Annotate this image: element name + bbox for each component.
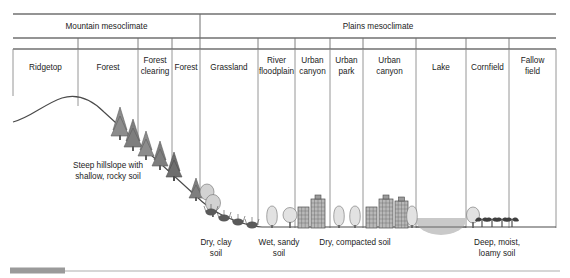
zone-label-urban-canyon-2-line1: Urban xyxy=(378,56,401,65)
building xyxy=(366,207,377,228)
zone-divider-ticks xyxy=(78,38,509,49)
conifer-tree xyxy=(166,152,182,181)
zone-label-grassland: Grassland xyxy=(210,63,248,72)
poplar-tree xyxy=(267,206,278,228)
soil-label-dry-clay-line2: soil xyxy=(210,249,222,258)
soil-label-dry-compacted: Dry, compacted soil xyxy=(319,238,390,247)
zone-label-urban-park-line1: Urban xyxy=(335,56,358,65)
mesoclimate-label-mountain: Mountain mesoclimate xyxy=(66,22,148,31)
shrub xyxy=(217,210,231,221)
mesoclimate-transect-figure: Mountain mesoclimate Plains mesoclimate xyxy=(0,0,570,278)
zone-label-urban-canyon-2-line2: canyon xyxy=(376,67,403,76)
poplar-tree xyxy=(334,206,345,228)
zone-label-cornfield: Cornfield xyxy=(471,63,504,72)
soil-label-deep-moist-line2: loamy soil xyxy=(479,249,516,258)
zone-label-fallow-field-line1: Fallow xyxy=(521,56,545,65)
footer-progress-bar xyxy=(10,268,65,274)
zone-label-lake: Lake xyxy=(432,63,450,72)
zone-label-forest-1: Forest xyxy=(96,63,120,72)
zone-label-river-floodplain-line1: River xyxy=(267,56,286,65)
poplar-tree xyxy=(350,206,361,228)
zone-label-forest-clearing-line2: clearing xyxy=(141,67,170,76)
building xyxy=(311,195,325,228)
conifer-tree xyxy=(152,141,168,170)
soil-label-deep-moist-line1: Deep, moist, xyxy=(474,238,520,247)
zone-label-forest-2: Forest xyxy=(174,63,198,72)
cornfield-group xyxy=(467,207,520,228)
corn-plant xyxy=(505,218,519,227)
soil-label-wet-sandy-line2: soil xyxy=(273,249,285,258)
lake-water xyxy=(416,205,466,235)
building xyxy=(395,197,408,228)
zone-labels: Ridgetop Forest Forest clearing Forest G… xyxy=(29,56,544,76)
soil-label-wet-sandy-line1: Wet, sandy xyxy=(259,238,301,247)
tree-group-urban-park xyxy=(334,206,361,228)
zone-label-urban-canyon-1-line2: canyon xyxy=(299,67,326,76)
building xyxy=(379,195,393,228)
deciduous-tree xyxy=(467,207,480,228)
hillslope-note-line1: Steep hillslope with xyxy=(73,161,144,170)
building-group-urban-canyon-2 xyxy=(366,195,417,228)
mesoclimate-label-plains: Plains mesoclimate xyxy=(343,22,414,31)
zone-label-fallow-field-line2: field xyxy=(525,67,540,76)
zone-label-ridgetop: Ridgetop xyxy=(29,63,62,72)
zone-divider-lines xyxy=(13,49,556,228)
floodplain-tree-group xyxy=(267,206,297,228)
conifer-group-hillslope xyxy=(111,107,203,201)
building xyxy=(298,207,309,228)
transect-diagram: Mountain mesoclimate Plains mesoclimate xyxy=(0,0,570,278)
zone-label-river-floodplain-line2: floodplain xyxy=(259,67,294,76)
zone-label-urban-canyon-1-line1: Urban xyxy=(301,56,324,65)
zone-label-forest-clearing-line1: Forest xyxy=(143,56,167,65)
conifer-tree xyxy=(111,107,129,140)
building-group-urban-canyon-1 xyxy=(298,195,325,228)
soil-labels: Dry, clay soil Wet, sandy soil Dry, comp… xyxy=(200,238,520,258)
soil-label-dry-clay-line1: Dry, clay xyxy=(200,238,232,247)
zone-label-urban-park-line2: park xyxy=(339,67,356,76)
hillslope-note-line2: shallow, rocky soil xyxy=(75,172,141,181)
